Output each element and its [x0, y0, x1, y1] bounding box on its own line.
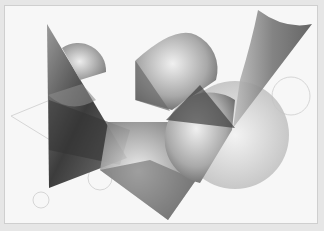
abstract-artwork	[0, 0, 324, 231]
artwork-frame	[0, 0, 324, 231]
